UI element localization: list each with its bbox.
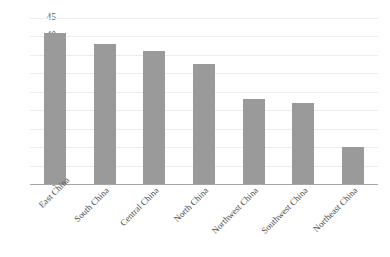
bar [94,44,116,184]
bar-slot [328,18,378,184]
plot-area [30,18,378,184]
bar-slot [279,18,329,184]
bar [143,51,165,184]
x-axis-tick-label: South China [52,186,111,245]
bar-slot [229,18,279,184]
bar-slot [80,18,130,184]
bar [292,103,314,184]
x-axis-tick-label: Southwest China [110,186,310,257]
bar [342,147,364,184]
bar-chart: 454035302520151050 East ChinaSouth China… [0,0,390,257]
x-axis-tick-labels: East ChinaSouth ChinaCentral ChinaNorth … [30,186,378,256]
bar-slot [179,18,229,184]
axis-baseline [30,184,378,185]
bar [193,64,215,184]
bars-layer [30,18,378,184]
bar-slot [30,18,80,184]
bar-slot [129,18,179,184]
bar [44,33,66,184]
bar [243,99,265,184]
x-axis-tick-label: East China [37,186,61,210]
